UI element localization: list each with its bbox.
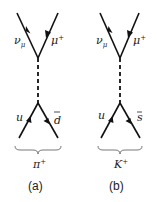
caption-a: (a) xyxy=(28,179,43,193)
diagram-b: νμ μ+ u s K+ (b) xyxy=(96,13,146,193)
label-d-bar-quark: d xyxy=(54,114,61,127)
brace xyxy=(15,146,61,154)
label-mu-plus: μ+ xyxy=(133,34,146,47)
label-u-quark: u xyxy=(16,111,23,124)
label-meson-pi: π+ xyxy=(32,158,46,171)
caption-b: (b) xyxy=(109,179,124,193)
feynman-diagrams: νμ μ+ u d π+ (a) νμ μ+ u s K+ (b) xyxy=(0,0,157,202)
label-nu-mu: νμ xyxy=(14,34,26,49)
label-u-quark: u xyxy=(98,109,105,122)
neutrino-line xyxy=(100,13,120,58)
diagram-a: νμ μ+ u d π+ (a) xyxy=(14,13,64,193)
label-nu-mu: νμ xyxy=(96,34,108,49)
label-meson-k: K+ xyxy=(113,158,128,171)
brace xyxy=(98,146,142,154)
label-s-bar-quark: s xyxy=(137,111,143,124)
label-mu-plus: μ+ xyxy=(51,34,64,47)
